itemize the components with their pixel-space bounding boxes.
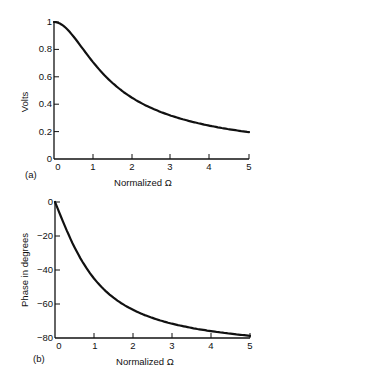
x-tick-label: 4 [206,161,211,172]
y-tick-label: 0 [48,196,53,207]
y-tick-label: 0.8 [39,43,52,54]
y-tick-label: 0.6 [39,71,52,82]
x-axis-label-a: Normalized Ω [114,177,172,188]
y-tick-label: 0.2 [39,126,52,137]
y-tick-label: −40 [37,264,53,275]
y-ticks-a [54,22,59,132]
x-tick-label: 1 [90,161,95,172]
y-tick-label: −60 [37,298,53,309]
x-axis-label-b: Normalized Ω [116,356,174,367]
magnitude-curve [54,22,249,132]
figure: 0 0.2 0.4 0.6 0.8 1 0 1 2 3 4 5 Normaliz… [0,0,365,377]
y-tick-label: 0.4 [39,98,52,109]
x-tick-label: 0 [56,340,61,351]
panel-b: 0 −20 −40 −60 −80 0 1 2 3 4 5 Normalized… [19,196,253,367]
panel-label-a: (a) [25,169,37,180]
x-ticks-a [93,154,249,159]
y-tick-label: 0 [47,153,52,164]
panel-a: 0 0.2 0.4 0.6 0.8 1 0 1 2 3 4 5 Normaliz… [19,16,252,188]
x-tick-label: 3 [167,161,172,172]
x-tick-label: 5 [247,340,252,351]
x-tick-label: 5 [246,161,251,172]
panel-label-b: (b) [33,353,45,364]
x-tick-label: 1 [92,340,97,351]
y-tick-label: −80 [37,332,53,343]
y-axis-label-b: Phase in degrees [19,233,30,307]
x-tick-label: 2 [130,340,135,351]
y-ticks-b [55,202,60,304]
y-tick-label: 1 [47,16,52,27]
y-tick-label: −20 [37,230,53,241]
y-axis-label-a: Volts [19,91,30,112]
phase-curve [55,202,250,336]
x-tick-label: 4 [208,340,213,351]
x-tick-label: 0 [55,161,60,172]
x-tick-label: 3 [169,340,174,351]
x-tick-label: 2 [129,161,134,172]
